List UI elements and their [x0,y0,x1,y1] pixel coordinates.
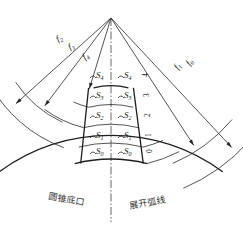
radius-f3 [45,18,111,106]
row-number-4: 4 [141,73,150,77]
diagram-labels: f2f3f4f1f0S4S3S2S1S0S4S3S2S1S043210圆锥底口展… [48,32,196,211]
arrowhead-icon [45,100,50,106]
label-left-S3: S3 [96,90,104,101]
label-left-S2: S2 [96,110,104,121]
row-number-2: 2 [143,113,152,117]
label-left-S0: S0 [96,146,104,157]
label-right-S2: S2 [124,110,132,121]
cone-development-diagram: f2f3f4f1f0S4S3S2S1S0S4S3S2S1S043210圆锥底口展… [0,0,243,232]
radius-f0 [111,18,232,147]
radius-f1 [111,18,194,145]
label-right-S3: S3 [124,90,132,101]
label-f2: f2 [54,32,64,44]
panel-right-edge [133,88,143,164]
label-right-S1: S1 [124,130,132,141]
arrowhead-icon [89,83,92,89]
row2-ext-left [45,109,84,127]
row1-ext-right [143,140,163,147]
label-f0: f0 [183,57,195,68]
label-f1: f1 [171,61,183,72]
row-number-0: 0 [145,149,154,153]
label-left-S4: S4 [96,70,104,81]
label-cone-base: 圆锥底口 [48,190,85,207]
label-right-S0: S0 [124,146,132,157]
diagram-geometry [0,18,243,222]
row-number-1: 1 [144,133,153,137]
label-right-S4: S4 [124,70,132,81]
label-left-S1: S1 [96,130,104,141]
arc-f2 [0,83,64,148]
row-number-3: 3 [142,93,151,97]
arrowhead-icon [189,139,194,145]
label-development-arc: 展开弧线 [128,194,165,211]
panel-left-edge [81,88,89,164]
